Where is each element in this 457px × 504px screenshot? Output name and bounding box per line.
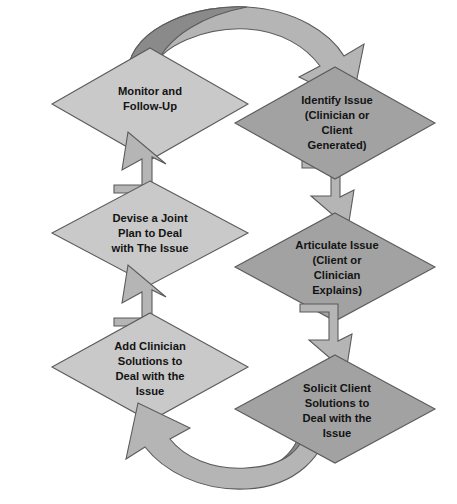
node-label-line: Plan to Deal xyxy=(118,227,182,239)
node-label-line: Monitor and xyxy=(118,85,182,97)
node-solicit-client-solutions[interactable]: Solicit Client Solutions to Deal with th… xyxy=(235,355,435,463)
node-label-line: Solicit Client xyxy=(303,382,371,394)
flow-diagram-svg: Monitor and Follow-Up Identify Issue (Cl… xyxy=(0,0,457,504)
node-label-line: Solutions to xyxy=(305,397,370,409)
node-identify-issue[interactable]: Identify Issue (Clinician or Client Gene… xyxy=(235,67,435,179)
node-label-line: Issue xyxy=(136,385,165,397)
node-label-line: Deal with the xyxy=(116,370,185,382)
node-label-line: with The Issue xyxy=(110,242,188,254)
node-monitor-and-follow-up[interactable]: Monitor and Follow-Up xyxy=(52,48,248,160)
node-label-line: Identify Issue xyxy=(301,94,373,106)
node-label-line: Add Clinician xyxy=(114,340,186,352)
node-shape-diamond xyxy=(235,355,435,463)
node-label-line: Clinician xyxy=(314,269,361,281)
node-label-line: Issue xyxy=(323,427,352,439)
node-label-line: Generated) xyxy=(307,139,366,151)
node-devise-a-joint-plan[interactable]: Devise a Joint Plan to Deal with The Iss… xyxy=(52,181,248,285)
node-label-line: Client xyxy=(321,124,352,136)
node-label-line: Articulate Issue xyxy=(295,239,378,251)
flow-diagram-canvas: Monitor and Follow-Up Identify Issue (Cl… xyxy=(0,0,457,504)
node-label-line: Deal with the xyxy=(303,412,372,424)
node-shape-diamond xyxy=(52,313,248,421)
node-add-clinician-solutions[interactable]: Add Clinician Solutions to Deal with the… xyxy=(52,313,248,421)
node-label-line: Explains) xyxy=(312,284,362,296)
node-label-line: (Client or xyxy=(312,254,362,266)
node-label-line: Solutions to xyxy=(118,355,183,367)
node-label-line: Follow-Up xyxy=(123,100,177,112)
node-label-line: (Clinician or xyxy=(305,109,370,121)
node-label-line: Devise a Joint xyxy=(112,212,188,224)
